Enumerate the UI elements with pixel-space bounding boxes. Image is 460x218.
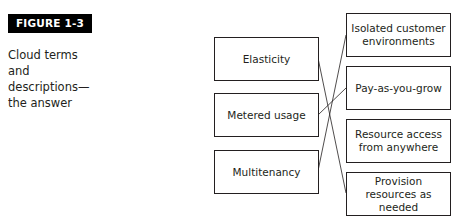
term-elasticity: Elasticity (214, 37, 319, 81)
desc-resource-access-from-anywhere: Resource access from anywhere (346, 119, 451, 163)
desc-isolated-customer-environments: Isolated customer environments (346, 13, 451, 57)
term-multitenancy: Multitenancy (214, 150, 319, 194)
connector-elasticity-provision (318, 58, 346, 193)
connector-multitenancy-isolated (318, 35, 346, 171)
term-metered-usage: Metered usage (214, 93, 319, 137)
desc-pay-as-you-grow: Pay-as-you-grow (346, 66, 451, 110)
desc-provision-resources-as-needed: Provision resources as needed (346, 172, 451, 216)
